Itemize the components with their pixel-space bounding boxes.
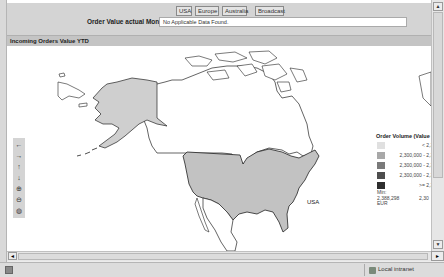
section-title: Incoming Orders Value YTD	[10, 38, 89, 44]
horizontal-scrollbar[interactable]: ◄	[7, 251, 431, 261]
pan-up-icon[interactable]: ↑	[13, 161, 25, 172]
australia-button[interactable]: Australia	[222, 6, 247, 16]
arctic-island	[215, 52, 247, 62]
scroll-right-button[interactable]: ►	[431, 251, 444, 261]
broadcast-button[interactable]: Broadcast	[255, 6, 284, 16]
page-status-icon	[5, 266, 13, 274]
greenland-edge	[419, 72, 431, 106]
arctic-island	[290, 68, 307, 82]
legend-swatch	[377, 182, 385, 189]
pan-down-icon[interactable]: ↓	[13, 172, 25, 183]
scroll-left-button[interactable]: ◄	[8, 252, 17, 260]
chukotka-coast	[58, 82, 85, 100]
status-bar: Local intranet	[0, 262, 444, 277]
legend-min: Min: 2,388,298 EUR	[377, 190, 399, 207]
legend-swatch	[377, 152, 385, 159]
europe-button[interactable]: Europe	[195, 6, 219, 16]
arctic-island	[185, 56, 212, 66]
page-content: USA Europe Australia Broadcast Order Val…	[7, 0, 431, 251]
zoom-out-icon[interactable]: ⊖	[13, 194, 25, 205]
map-canvas[interactable]: USA ← → ↑ ↓ ⊕ ⊖ ◍ Order Volume (Value < …	[7, 46, 431, 251]
scroll-up-button[interactable]: ▲	[433, 2, 443, 11]
legend-range: >= 2,30	[390, 182, 431, 188]
arctic-island	[277, 82, 291, 92]
vertical-scrollbar[interactable]: ▲ ▼	[431, 0, 444, 251]
vertical-scroll-thumb[interactable]	[433, 12, 443, 178]
legend-row: 2,300,000 - 2,30	[377, 152, 431, 160]
legend-range: < 2,30	[390, 142, 431, 148]
intranet-zone-icon	[369, 267, 376, 274]
usa-button[interactable]: USA	[176, 6, 192, 16]
small-island	[59, 73, 65, 77]
legend-max-value: 2,30	[419, 195, 429, 201]
pan-left-icon[interactable]: ←	[13, 139, 25, 150]
pan-right-icon[interactable]: →	[13, 150, 25, 161]
legend-range: 2,300,000 - 2,30	[390, 152, 431, 158]
usa-map-label: USA	[307, 199, 319, 205]
north-america-map[interactable]: USA	[7, 46, 431, 251]
map-legend: Order Volume (Value < 2,30 2,300,000 - 2…	[375, 133, 431, 203]
legend-currency: EUR	[377, 201, 399, 207]
security-zone-label: Local intranet	[378, 266, 414, 272]
region-button-row: USA Europe Australia Broadcast	[7, 6, 431, 17]
map-navigation-toolbar: ← → ↑ ↓ ⊕ ⊖ ◍	[13, 138, 25, 218]
aleutian-islands	[77, 148, 97, 156]
globe-icon[interactable]: ◍	[13, 205, 25, 216]
arctic-island	[249, 51, 277, 64]
browser-window: USA Europe Australia Broadcast Order Val…	[0, 0, 444, 277]
status-divider	[364, 264, 365, 276]
legend-swatch	[377, 162, 385, 169]
scroll-down-button[interactable]: ▼	[433, 240, 443, 249]
legend-swatch	[377, 142, 385, 149]
zoom-in-icon[interactable]: ⊕	[13, 183, 25, 194]
legend-title: Order Volume (Value	[376, 133, 430, 139]
horizontal-scroll-thumb[interactable]	[18, 253, 428, 260]
legend-row: < 2,30	[377, 142, 431, 150]
legend-row: 2,300,000 - 2,30	[377, 162, 431, 170]
filter-panel: USA Europe Australia Broadcast Order Val…	[7, 3, 431, 35]
legend-swatch	[377, 172, 385, 179]
canada-region	[141, 66, 313, 164]
legend-row: 2,300,000 - 2,30	[377, 172, 431, 180]
section-header: Incoming Orders Value YTD	[7, 35, 431, 46]
order-value-field: No Applicable Data Found.	[159, 17, 407, 27]
window-left-border	[0, 0, 7, 262]
small-island	[79, 103, 87, 107]
legend-range: 2,300,000 - 2,30	[390, 162, 431, 168]
legend-range: 2,300,000 - 2,30	[390, 172, 431, 178]
